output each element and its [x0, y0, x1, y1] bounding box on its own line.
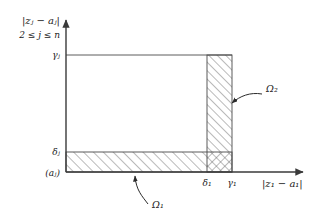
x-tick-gamma-1: γ₁ — [228, 178, 237, 188]
diagram-canvas: |zⱼ − aⱼ| 2 ≤ j ≤ n γⱼ δⱼ (aⱼ) δ₁ γ₁ |z₁… — [0, 0, 315, 214]
origin-label: (aⱼ) — [45, 168, 60, 178]
region-label-omega2: Ω₂ — [265, 83, 278, 94]
x-tick-delta-1: δ₁ — [202, 178, 211, 188]
y-axis-condition: 2 ≤ j ≤ n — [18, 30, 60, 40]
y-axis-title: |zⱼ − aⱼ| — [22, 15, 60, 27]
x-axis-title: |z₁ − a₁| — [262, 178, 303, 190]
region-label-omega1: Ω₁ — [151, 199, 164, 210]
y-tick-delta-j: δⱼ — [52, 147, 60, 157]
region-overlap-fill — [207, 152, 232, 172]
y-tick-gamma-j: γⱼ — [52, 50, 60, 60]
omega1-arrow — [135, 176, 148, 204]
omega2-arrow — [232, 93, 262, 103]
math-diagram-figure: |zⱼ − aⱼ| 2 ≤ j ≤ n γⱼ δⱼ (aⱼ) δ₁ γ₁ |z₁… — [0, 0, 315, 214]
